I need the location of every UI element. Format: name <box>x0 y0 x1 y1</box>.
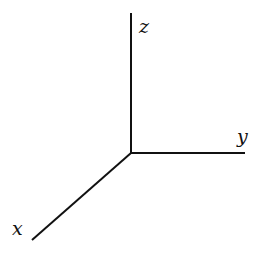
axes-diagram: z y x <box>0 0 265 256</box>
x-axis-line <box>32 153 131 240</box>
y-axis-label: y <box>236 125 248 147</box>
z-axis-label: z <box>138 15 150 37</box>
x-axis-label: x <box>12 217 23 239</box>
